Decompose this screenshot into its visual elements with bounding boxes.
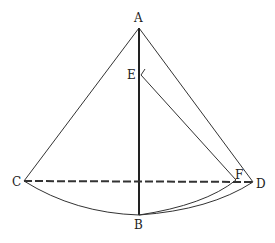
arc-BD <box>139 182 253 215</box>
line-EF <box>141 75 236 180</box>
line-CD-dashed <box>24 181 253 182</box>
label-F: F <box>235 168 243 182</box>
label-D: D <box>256 177 266 191</box>
label-B: B <box>134 218 143 232</box>
geometry-diagram: A E C D F B <box>0 0 275 243</box>
arc-CB <box>24 181 139 215</box>
line-AC <box>24 28 139 181</box>
line-AD <box>139 28 253 182</box>
label-E: E <box>127 68 136 82</box>
label-A: A <box>133 11 143 25</box>
label-C: C <box>12 175 21 189</box>
tick-E <box>141 69 145 75</box>
